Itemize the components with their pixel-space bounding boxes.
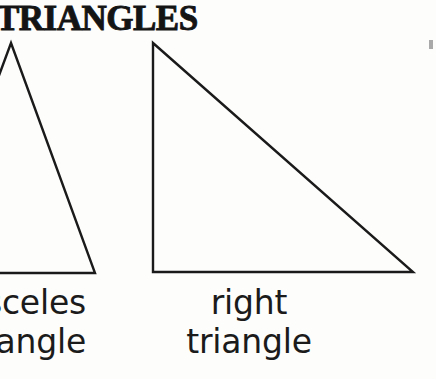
triangles-worksheet-page: TRIANGLES isosceles triangle right trian… bbox=[0, 0, 436, 379]
right-triangle-shape bbox=[153, 43, 413, 272]
isosceles-caption-line-1: isosceles bbox=[0, 283, 86, 322]
isosceles-triangle-shape bbox=[0, 43, 95, 273]
right-triangle-caption: right triangle bbox=[175, 283, 323, 361]
isosceles-triangle-caption: isosceles triangle bbox=[0, 283, 86, 361]
right-caption-line-2: triangle bbox=[175, 322, 323, 361]
scan-edge-artifact bbox=[429, 40, 433, 49]
isosceles-caption-line-2: triangle bbox=[0, 322, 86, 361]
right-caption-line-1: right bbox=[175, 283, 323, 322]
